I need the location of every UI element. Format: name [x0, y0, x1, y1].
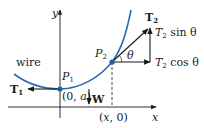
p1-coord-label: (0, a): [62, 90, 91, 103]
wire-label: wire: [16, 56, 41, 69]
t2-label: T2: [145, 11, 158, 25]
w-label: W: [91, 93, 105, 106]
t1-label: T1: [10, 83, 23, 97]
y-axis-label: y: [51, 7, 59, 20]
p2-foot-label: (x, 0): [99, 111, 128, 124]
theta-label: θ: [127, 49, 134, 62]
catenary-diagram: y x wire T1 W P1 (0, a) θ P2 (x, 0) T2 T…: [0, 0, 204, 128]
p2-label: P2: [94, 47, 107, 61]
x-axis-label: x: [152, 111, 159, 124]
t2-cos-label: T2 cos θ: [155, 56, 199, 70]
t2-sin-label: T2 sin θ: [155, 26, 197, 40]
theta-arc: [120, 56, 123, 63]
p1-label: P1: [61, 70, 74, 84]
p2-point: [109, 59, 114, 64]
